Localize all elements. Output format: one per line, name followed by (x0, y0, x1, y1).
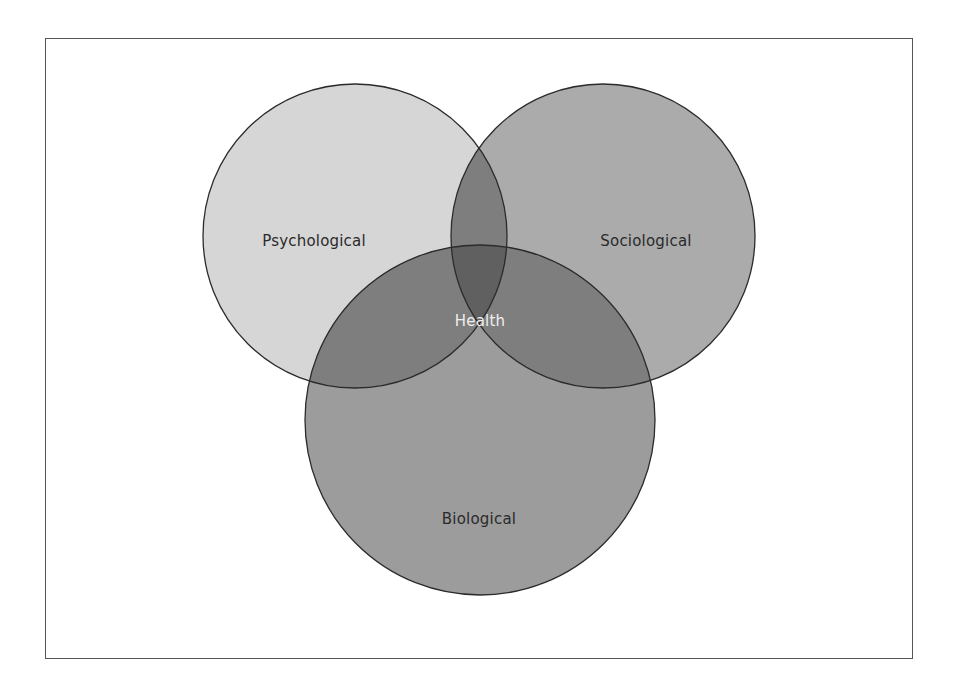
sociological-label: Sociological (600, 232, 691, 250)
psychological-label: Psychological (262, 232, 366, 250)
health-label: Health (455, 312, 505, 330)
venn-diagram (0, 0, 961, 682)
biological-label: Biological (442, 510, 516, 528)
